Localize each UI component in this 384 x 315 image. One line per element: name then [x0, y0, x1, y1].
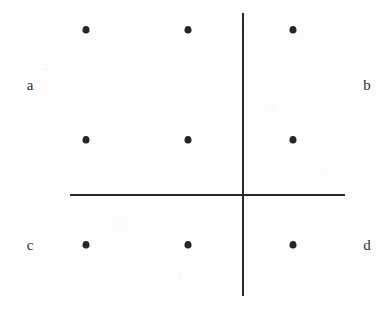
scan-grain-texture	[0, 0, 384, 315]
label-a: a	[27, 78, 34, 93]
diagram-canvas: abcd	[0, 0, 384, 315]
vertical-axis	[242, 13, 244, 296]
data-point	[185, 242, 192, 249]
label-c: c	[27, 238, 34, 253]
label-b: b	[363, 78, 371, 93]
data-point	[290, 242, 297, 249]
data-point	[290, 27, 297, 34]
data-point	[290, 137, 297, 144]
data-point	[83, 242, 90, 249]
data-point	[83, 27, 90, 34]
data-point	[185, 27, 192, 34]
data-point	[185, 137, 192, 144]
data-point	[83, 137, 90, 144]
horizontal-axis	[70, 194, 345, 196]
label-d: d	[363, 238, 371, 253]
